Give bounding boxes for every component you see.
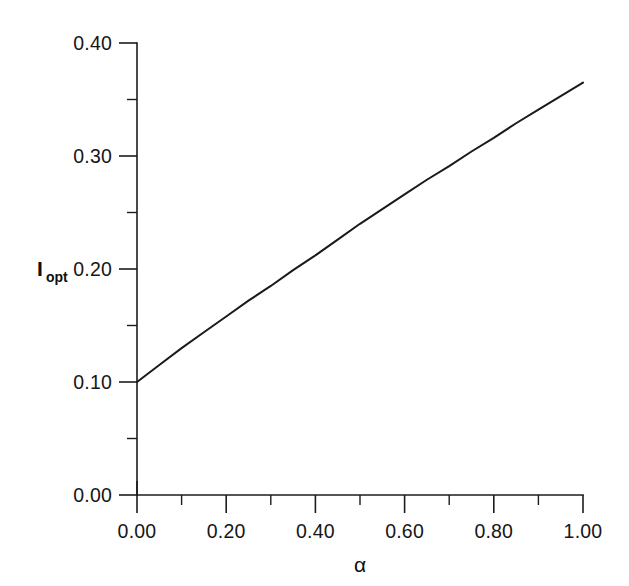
y-tick-label-4: 0.00 xyxy=(73,484,112,506)
chart-figure: 0.40 0.30 0.20 0.10 0.00 0.00 0.20 0.40 … xyxy=(0,0,629,586)
y-tick-label-2: 0.20 xyxy=(73,258,112,280)
y-tick-label-3: 0.10 xyxy=(73,371,112,393)
x-axis-title: α xyxy=(354,553,366,576)
y-axis-title: I opt xyxy=(37,257,68,285)
data-series-line xyxy=(137,83,583,382)
x-tick-label-5: 1.00 xyxy=(564,520,603,542)
y-axis-title-subscript: opt xyxy=(46,269,68,285)
x-tick-label-4: 0.80 xyxy=(474,520,513,542)
y-tick-label-1: 0.30 xyxy=(73,145,112,167)
x-tick-label-2: 0.40 xyxy=(296,520,335,542)
x-axis-minor-ticks xyxy=(182,495,539,505)
y-tick-labels: 0.40 0.30 0.20 0.10 0.00 xyxy=(73,32,112,506)
axis-spines xyxy=(137,43,583,495)
y-axis-major-ticks xyxy=(119,43,137,495)
x-tick-label-3: 0.60 xyxy=(385,520,424,542)
y-tick-label-0: 0.40 xyxy=(73,32,112,54)
y-axis-title-base: I xyxy=(37,257,43,280)
x-tick-label-1: 0.20 xyxy=(207,520,246,542)
line-chart: 0.40 0.30 0.20 0.10 0.00 0.00 0.20 0.40 … xyxy=(0,0,629,586)
x-tick-label-0: 0.00 xyxy=(118,520,157,542)
x-tick-labels: 0.00 0.20 0.40 0.60 0.80 1.00 xyxy=(118,520,603,542)
